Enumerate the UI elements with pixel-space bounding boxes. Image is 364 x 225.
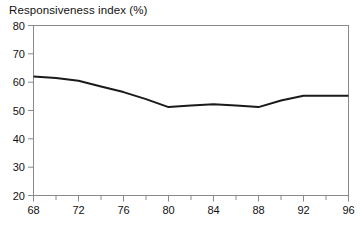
- y-axis-ticks: [28, 26, 34, 196]
- line-chart-plot: 80 70 60 50 40 30 20: [0, 0, 364, 225]
- y-tick-label-80: 80: [13, 20, 25, 32]
- x-tick-label-76: 76: [117, 204, 129, 216]
- x-tick-label-80: 80: [162, 204, 174, 216]
- chart-figure: Responsiveness index (%) 80 70 60 50 40 …: [0, 0, 364, 225]
- x-tick-label-68: 68: [27, 204, 39, 216]
- y-tick-label-70: 70: [13, 48, 25, 60]
- y-tick-label-50: 50: [13, 105, 25, 117]
- x-axis-minor-ticks: [56, 196, 326, 201]
- x-tick-label-92: 92: [297, 204, 309, 216]
- y-axis-tick-labels: 80 70 60 50 40 30 20: [13, 20, 25, 202]
- y-tick-label-40: 40: [13, 133, 25, 145]
- x-tick-label-84: 84: [207, 204, 219, 216]
- plot-frame: [34, 26, 349, 196]
- x-tick-label-88: 88: [252, 204, 264, 216]
- x-tick-label-96: 96: [342, 204, 354, 216]
- x-axis-tick-labels: 68 72 76 80 84 88 92 96: [27, 204, 354, 216]
- x-tick-label-72: 72: [72, 204, 84, 216]
- y-tick-label-30: 30: [13, 161, 25, 173]
- y-tick-label-60: 60: [13, 76, 25, 88]
- y-tick-label-20: 20: [13, 190, 25, 202]
